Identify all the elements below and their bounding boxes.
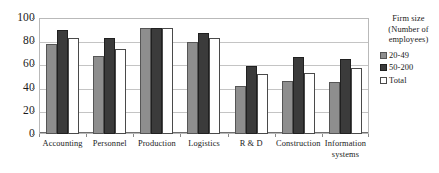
bar (140, 28, 151, 134)
x-tick-mark (322, 134, 323, 137)
y-tick-mark-60 (32, 64, 35, 65)
bar (282, 81, 293, 134)
bar-group (228, 18, 275, 134)
bar (68, 38, 79, 134)
y-tick-mark-0 (32, 134, 35, 135)
x-tick-mark (180, 134, 181, 137)
chart-legend: Firm size (Number of employees) 20-4950-… (378, 14, 439, 88)
legend-title: Firm size (Number of employees) (378, 14, 439, 46)
bar (209, 38, 220, 134)
y-tick-mark-80 (32, 41, 35, 42)
bar-group (275, 18, 322, 134)
bar (198, 33, 209, 134)
legend-entry: Total (378, 76, 439, 85)
bar-group (180, 18, 227, 134)
bar (340, 59, 351, 134)
legend-label: Total (389, 76, 407, 85)
legend-swatch-icon (380, 64, 387, 71)
x-tick-mark (228, 134, 229, 137)
bar-group (39, 18, 86, 134)
legend-label: 50-200 (389, 63, 413, 72)
legend-swatch-icon (380, 52, 387, 59)
y-tick-mark-100 (32, 18, 35, 19)
x-tick-label: Production (138, 139, 176, 150)
bar (162, 28, 173, 134)
x-tick-mark (275, 134, 276, 137)
bar (93, 56, 104, 134)
y-tick-mark-40 (32, 88, 35, 89)
bar (46, 44, 57, 134)
bar (246, 66, 257, 134)
bar (104, 38, 115, 134)
bar (187, 42, 198, 134)
bar (151, 28, 162, 134)
legend-entry: 20-49 (378, 51, 439, 60)
bar (257, 74, 268, 134)
x-tick-label: Logistics (188, 139, 220, 150)
x-tick-mark (133, 134, 134, 137)
bar (351, 68, 362, 134)
x-tick-mark (39, 134, 40, 137)
bar (293, 57, 304, 134)
x-tick-mark (86, 134, 87, 137)
x-tick-label: R & D (240, 139, 263, 150)
x-tick-label: Personnel (93, 139, 127, 150)
x-axis-ticks (39, 134, 369, 138)
y-axis: 020406080100 (0, 18, 35, 134)
bar (304, 73, 315, 134)
y-tick-mark-20 (32, 111, 35, 112)
bar (115, 49, 126, 134)
legend-entry: 50-200 (378, 63, 439, 72)
bar-group (86, 18, 133, 134)
x-tick-label: Construction (276, 139, 320, 150)
x-tick-label: Information systems (325, 139, 366, 160)
bar (57, 30, 68, 134)
bar-chart-figure: 020406080100 AccountingPersonnelProducti… (0, 0, 439, 173)
legend-label: 20-49 (389, 51, 409, 60)
bar-group (322, 18, 369, 134)
x-tick-label: Accounting (43, 139, 83, 150)
bar (235, 86, 246, 134)
bars-layer (39, 18, 369, 134)
bar (329, 82, 340, 134)
x-tick-mark (368, 134, 369, 137)
legend-entries: 20-4950-200Total (378, 51, 439, 85)
bar-group (133, 18, 180, 134)
legend-swatch-icon (380, 77, 387, 84)
x-axis-labels: AccountingPersonnelProductionLogisticsR … (39, 139, 369, 169)
